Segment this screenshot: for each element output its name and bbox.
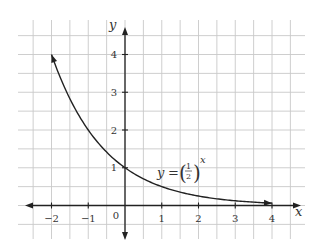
equation-exponent: x: [200, 154, 206, 165]
y-tick-label: 2: [111, 125, 117, 136]
x-tick-label: −2: [44, 213, 59, 224]
x-tick-label: −1: [81, 213, 96, 224]
axes: [25, 27, 301, 240]
x-tick-label: 1: [159, 213, 165, 224]
x-tick-label: 4: [269, 213, 275, 224]
x-axis-label: x: [295, 204, 303, 219]
x-tick-label: 0: [113, 210, 119, 221]
y-tick-label: 4: [111, 49, 117, 60]
exponential-graph: −2−1012341234 x y y = ( 1 2 ) x: [0, 0, 320, 251]
tick-labels: −2−1012341234: [44, 49, 275, 224]
equation-numerator: 1: [186, 162, 191, 171]
equation-equals: =: [168, 165, 179, 180]
equation-y: y: [156, 165, 165, 180]
y-axis-label: y: [108, 17, 117, 32]
y-tick-label: 1: [111, 162, 117, 173]
x-tick-label: 3: [232, 213, 238, 224]
x-tick-label: 2: [195, 213, 201, 224]
y-tick-label: 3: [111, 87, 117, 98]
equation-denominator: 2: [186, 172, 191, 181]
